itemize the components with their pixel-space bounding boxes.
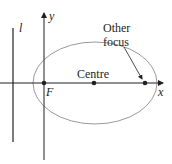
ellipse-diagram: l y x F Centre Other focus xyxy=(0,0,172,164)
other-focus-label-line1: Other xyxy=(103,21,130,35)
other-focus-label-line2: focus xyxy=(103,35,129,49)
other-focus-point xyxy=(143,81,148,86)
centre-point xyxy=(92,81,97,86)
centre-label: Centre xyxy=(77,67,109,81)
directrix-label: l xyxy=(19,21,23,35)
focus-label: F xyxy=(45,85,54,99)
x-axis-label: x xyxy=(157,85,164,99)
other-focus-pointer-arrow xyxy=(124,47,142,79)
y-axis-label: y xyxy=(48,9,55,23)
